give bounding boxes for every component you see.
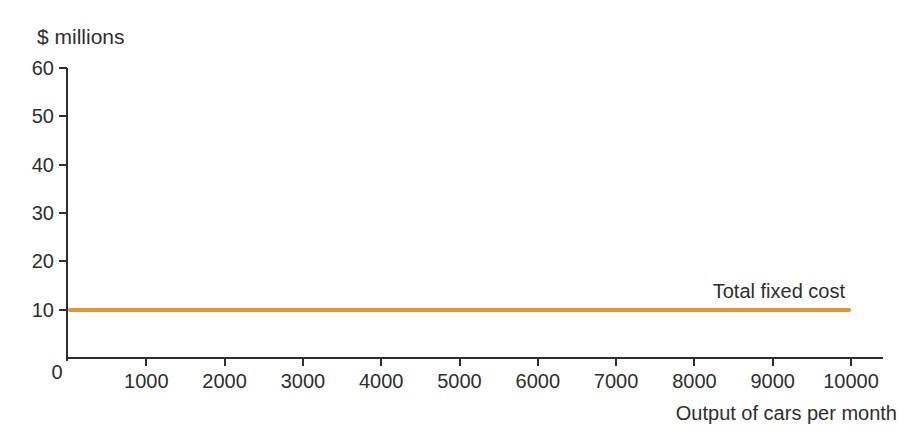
x-tick [850,358,852,366]
x-tick-label: 4000 [336,368,426,394]
y-tick [59,67,67,69]
y-tick [59,260,67,262]
y-tick-label: 10 [0,297,54,323]
x-tick [615,358,617,366]
x-tick [772,358,774,366]
x-tick-label: 5000 [415,368,505,394]
y-tick-label: 50 [0,103,54,129]
y-axis-title: $ millions [37,24,125,50]
x-tick-label: 1000 [101,368,191,394]
x-tick [302,358,304,366]
y-tick [59,212,67,214]
x-tick-label: 2000 [180,368,270,394]
x-tick [459,358,461,366]
x-tick-label: 8000 [649,368,739,394]
y-tick-label: 20 [0,248,54,274]
x-tick-label: 7000 [571,368,661,394]
x-axis-line [66,357,883,359]
y-tick [59,115,67,117]
chart: $ millions 10002000300040005000600070008… [0,0,917,447]
series-label: Total fixed cost [713,278,845,304]
x-tick-label: 3000 [258,368,348,394]
y-tick-label: 60 [0,55,54,81]
x-tick [537,358,539,366]
origin-label: 0 [42,359,72,385]
x-tick-label: 9000 [728,368,818,394]
x-tick-label: 10000 [806,368,896,394]
y-tick-label: 40 [0,152,54,178]
x-tick [380,358,382,366]
series-line-total-fixed-cost [68,308,851,312]
y-axis-line [66,68,68,361]
y-tick [59,309,67,311]
x-axis-title: Output of cars per month [676,400,897,426]
x-tick [693,358,695,366]
x-tick [224,358,226,366]
x-tick [145,358,147,366]
y-tick [59,164,67,166]
x-tick-label: 6000 [493,368,583,394]
y-tick-label: 30 [0,200,54,226]
